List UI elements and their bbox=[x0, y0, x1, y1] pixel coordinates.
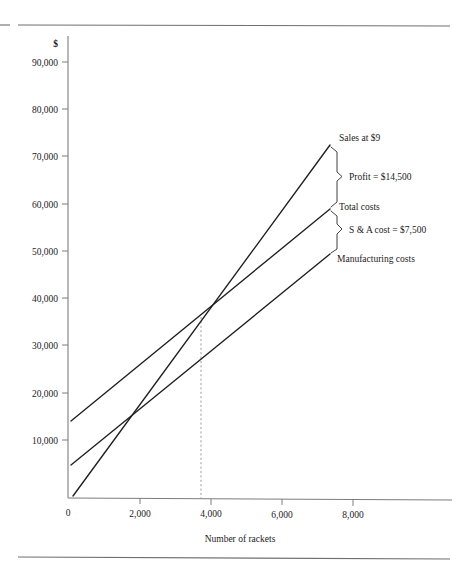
y-tick-label-90000: 90,000 bbox=[32, 58, 58, 68]
breakeven-chart-figure: 10,000 20,000 30,000 40,000 50,000 60,00… bbox=[0, 0, 464, 577]
x-axis-title: Number of rackets bbox=[205, 534, 276, 544]
annotation-profit: Profit = $14,500 bbox=[349, 172, 412, 182]
y-tick-label-50000: 50,000 bbox=[32, 247, 58, 257]
y-tick-label-40000: 40,000 bbox=[32, 294, 58, 304]
series-line-sales bbox=[73, 145, 330, 496]
annotation-sales-at-9: Sales at $9 bbox=[339, 133, 380, 143]
x-axis-line bbox=[68, 498, 452, 500]
profit-brace-icon bbox=[331, 147, 342, 207]
annotation-sa-cost: S & A cost = $7,500 bbox=[349, 225, 426, 235]
y-tick-label-60000: 60,000 bbox=[32, 200, 58, 210]
x-tick-label-6000: 6,000 bbox=[271, 510, 293, 520]
annotation-total-costs: Total costs bbox=[339, 202, 380, 212]
y-tick-label-20000: 20,000 bbox=[32, 389, 58, 399]
y-tick-label-10000: 10,000 bbox=[32, 436, 58, 446]
x-tick-label-8000: 8,000 bbox=[342, 510, 364, 520]
x-tick-label-0: 0 bbox=[66, 508, 71, 518]
y-tick-label-70000: 70,000 bbox=[32, 152, 58, 162]
y-axis-currency-label: $ bbox=[53, 39, 58, 49]
y-tick-label-80000: 80,000 bbox=[32, 105, 58, 115]
chart-canvas: 10,000 20,000 30,000 40,000 50,000 60,00… bbox=[0, 0, 464, 577]
bottom-rule bbox=[18, 557, 450, 559]
annotation-manufacturing-costs: Manufacturing costs bbox=[337, 254, 415, 264]
y-tick-label-30000: 30,000 bbox=[32, 341, 58, 351]
top-rule bbox=[18, 25, 450, 26]
x-tick-label-2000: 2,000 bbox=[129, 509, 151, 519]
x-tick-label-4000: 4,000 bbox=[200, 509, 222, 519]
sa-cost-brace-icon bbox=[331, 211, 342, 253]
